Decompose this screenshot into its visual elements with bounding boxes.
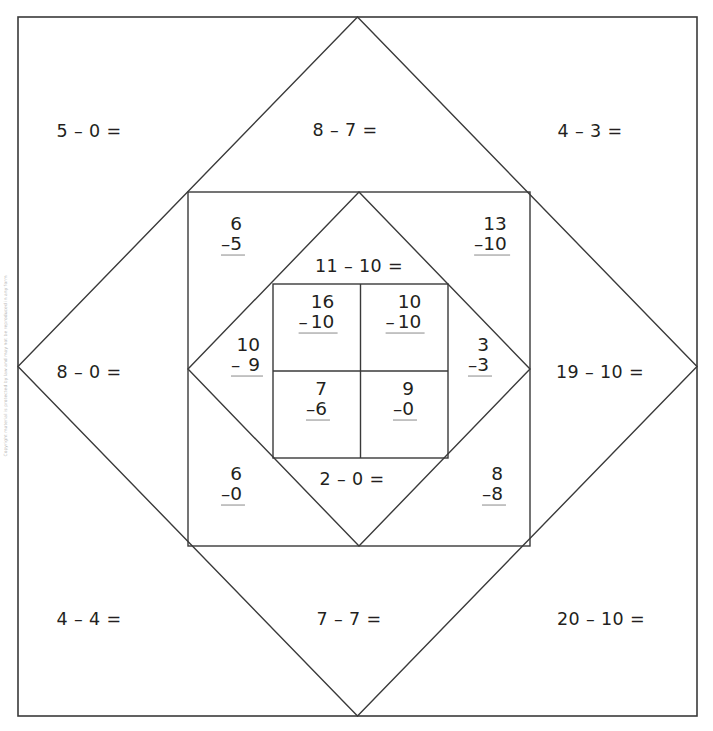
subtrahend: 8	[491, 483, 503, 504]
operator: –	[306, 398, 315, 419]
operator: –	[474, 233, 483, 254]
problem-outer-diamond-left: 8 – 0 =	[56, 362, 121, 382]
minuend: 8	[482, 464, 506, 484]
problem-inner-top-right: 10 –10	[386, 292, 425, 343]
subtrahend-row: –5	[221, 234, 245, 256]
problem-inner-diamond-left: 10 –9	[231, 335, 263, 386]
problem-inner-diamond-top: 11 – 10 =	[315, 256, 403, 276]
problem-inner-diamond-right: 3 –3	[468, 335, 492, 386]
minuend: 3	[468, 335, 492, 355]
subtrahend-row: –10	[299, 312, 338, 334]
problem-middle-bottom-left: 6 –0	[221, 464, 245, 515]
problem-inner-bottom-left: 7 –6	[306, 379, 330, 430]
margin-copyright-note: Copyright material is protected by law a…	[3, 275, 8, 456]
problem-outer-diamond-bottom: 7 – 7 =	[316, 609, 381, 629]
subtrahend: 10	[308, 311, 335, 332]
problem-middle-bottom-right: 8 –8	[482, 464, 506, 515]
answer-space[interactable]	[393, 420, 417, 429]
worksheet-page: 5 – 0 = 4 – 3 = 4 – 4 = 20 – 10 = 8 – 7 …	[0, 0, 713, 731]
problem-outer-bottom-right: 20 – 10 =	[557, 609, 645, 629]
subtrahend-row: –3	[468, 355, 492, 377]
problem-outer-top-left: 5 – 0 =	[56, 121, 121, 141]
minuend: 6	[221, 464, 245, 484]
problem-outer-diamond-top: 8 – 7 =	[312, 120, 377, 140]
operator: –	[468, 354, 477, 375]
operator: –	[221, 483, 230, 504]
operator: –	[221, 233, 230, 254]
subtrahend-row: –9	[231, 355, 263, 377]
subtrahend: 10	[483, 233, 507, 254]
subtrahend-row: –0	[221, 484, 245, 506]
subtrahend-row: –10	[386, 312, 425, 334]
minuend: 7	[306, 379, 330, 399]
subtrahend: 3	[477, 354, 489, 375]
answer-space[interactable]	[468, 376, 492, 385]
operator: –	[482, 483, 491, 504]
answer-space[interactable]	[221, 255, 245, 264]
problem-inner-top-left: 16 –10	[299, 292, 338, 343]
problem-middle-top-right: 13 –10	[474, 214, 510, 265]
answer-space[interactable]	[306, 420, 330, 429]
subtrahend: 10	[395, 311, 422, 332]
problem-inner-bottom-right: 9 –0	[393, 379, 417, 430]
subtrahend: 0	[230, 483, 242, 504]
minuend: 9	[393, 379, 417, 399]
minuend: 6	[221, 214, 245, 234]
minuend: 10	[231, 335, 263, 355]
answer-space[interactable]	[231, 376, 263, 385]
operator: –	[231, 354, 240, 375]
problem-inner-diamond-bottom: 2 – 0 =	[319, 469, 384, 489]
answer-space[interactable]	[386, 333, 425, 342]
minuend: 10	[386, 292, 425, 312]
subtrahend: 9	[240, 354, 260, 375]
label-layer: 5 – 0 = 4 – 3 = 4 – 4 = 20 – 10 = 8 – 7 …	[0, 0, 713, 731]
subtrahend: 6	[315, 398, 327, 419]
answer-space[interactable]	[474, 255, 510, 264]
problem-outer-diamond-right: 19 – 10 =	[556, 362, 644, 382]
problem-outer-top-right: 4 – 3 =	[557, 121, 622, 141]
subtrahend-row: –0	[393, 399, 417, 421]
subtrahend: 0	[402, 398, 414, 419]
problem-outer-bottom-left: 4 – 4 =	[56, 609, 121, 629]
operator: –	[386, 311, 395, 332]
subtrahend-row: –8	[482, 484, 506, 506]
subtrahend: 5	[230, 233, 242, 254]
operator: –	[393, 398, 402, 419]
problem-middle-top-left: 6 –5	[221, 214, 245, 265]
subtrahend-row: –6	[306, 399, 330, 421]
subtrahend-row: –10	[474, 234, 510, 256]
answer-space[interactable]	[299, 333, 338, 342]
answer-space[interactable]	[482, 505, 506, 514]
answer-space[interactable]	[221, 505, 245, 514]
minuend: 13	[474, 214, 510, 234]
operator: –	[299, 311, 308, 332]
minuend: 16	[299, 292, 338, 312]
